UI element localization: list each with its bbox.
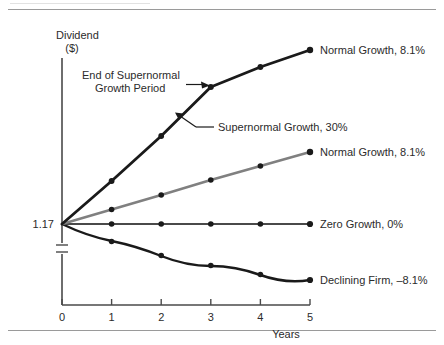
y-axis-label-line1: Dividend [56,29,99,41]
x-tick-label-2: 2 [158,311,164,323]
annotation-supernormal-callout: Supernormal Growth, 30% [218,121,348,133]
series-markers-supernormal-growth [109,47,313,184]
x-tick-label-1: 1 [109,311,115,323]
series-label-zero-growth: Zero Growth, 0% [320,218,403,230]
x-tick-label-0: 0 [59,311,65,323]
y-value-label-1-17: 1.17 [33,218,54,230]
y-axis-label-line2: ($) [65,42,78,54]
series-line-normal-growth [62,152,310,224]
annotation-arrow-supernormal-callout [175,113,214,128]
series-label-normal-growth: Normal Growth, 8.1% [320,146,425,158]
x-tick-label-4: 4 [257,311,263,323]
dividend-growth-chart: Dividend ($) 1.17 0 1 2 3 4 5 Years [0,0,444,345]
series-label-supernormal-end: Normal Growth, 8.1% [320,44,425,56]
series-label-declining-firm: Declining Firm, –8.1% [320,274,428,286]
x-tick-label-5: 5 [307,311,313,323]
annotation-end-supernormal-line1: End of Supernormal [82,69,180,81]
series-markers-normal-growth [109,149,313,213]
annotation-end-supernormal-line2: Growth Period [95,82,165,94]
series-markers-declining-firm [109,239,313,283]
annotation-arrow-end-supernormal [186,82,210,89]
series-line-declining-firm [62,224,310,281]
x-tick-label-3: 3 [208,311,214,323]
x-axis-label: Years [272,328,300,340]
figure-container: Dividend ($) 1.17 0 1 2 3 4 5 Years [0,0,444,345]
